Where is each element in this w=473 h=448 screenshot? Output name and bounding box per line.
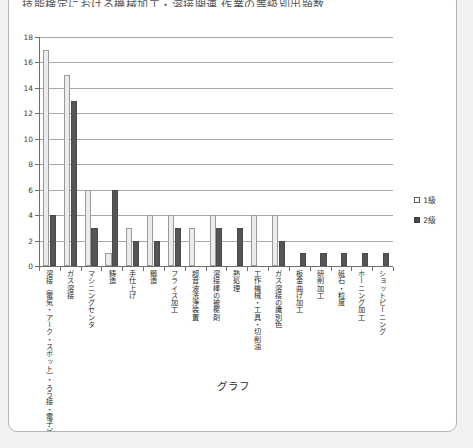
bar xyxy=(126,228,132,266)
legend-swatch-icon xyxy=(414,217,420,223)
x-axis-category-label: ガス溶接の識別色 xyxy=(275,270,282,328)
bar xyxy=(91,228,97,266)
y-axis-line xyxy=(39,37,40,267)
y-axis-tick xyxy=(35,113,40,114)
x-axis-category-label: 工作機械・工具・切削油 xyxy=(254,270,261,350)
y-axis-tick xyxy=(35,164,40,165)
x-axis-category-label: 熱処理 xyxy=(233,270,240,292)
gridline xyxy=(39,190,393,191)
figure-caption: グラフ xyxy=(9,378,457,393)
legend-swatch-icon xyxy=(414,197,420,203)
x-axis-category-label: 鍛造 xyxy=(150,270,157,285)
x-axis-category-label: フライス加工 xyxy=(171,270,178,314)
bar xyxy=(112,190,118,266)
legend-label: 2級 xyxy=(423,214,436,225)
bar xyxy=(320,253,326,266)
y-axis-tick-label: 8 xyxy=(28,160,33,169)
bar xyxy=(300,253,306,266)
x-axis-category-label: ホーニング加工 xyxy=(358,270,365,321)
x-axis-category-label: 鋳造 xyxy=(108,270,115,285)
bar xyxy=(362,253,368,266)
gridline xyxy=(39,139,393,140)
gridline xyxy=(39,88,393,89)
bar xyxy=(237,228,243,266)
y-axis-tick-label: 0 xyxy=(28,262,33,271)
bar xyxy=(50,215,56,266)
y-axis-tick-label: 16 xyxy=(24,58,33,67)
gridline xyxy=(39,215,393,216)
y-axis-tick-label: 4 xyxy=(28,211,33,220)
x-axis-category-labels: 溶接（電気・アーク・スポット）・ろう接・電子ビーム・レーザ・放電・ウォータジェッ… xyxy=(39,270,393,375)
bar xyxy=(168,215,174,266)
x-axis-tick xyxy=(393,267,394,271)
bar xyxy=(383,253,389,266)
y-axis-tick-label: 18 xyxy=(24,33,33,42)
y-axis-tick xyxy=(35,62,40,63)
bar-chart: 024681012141618 溶接（電気・アーク・スポット）・ろう接・電子ビー… xyxy=(9,0,457,432)
gridline xyxy=(39,113,393,114)
y-axis-tick xyxy=(35,190,40,191)
x-axis-category-label: 溶接（電気・アーク・スポット）・ろう接・電子ビーム・レーザ・放電・ウォータジェッ… xyxy=(46,270,53,432)
x-axis-category-label: マシニングセンタ xyxy=(87,270,94,328)
bar xyxy=(71,101,77,266)
bar xyxy=(43,50,49,266)
x-axis-category-label: 手仕上げ xyxy=(129,270,136,299)
gridline xyxy=(39,62,393,63)
bar xyxy=(105,253,111,266)
bar xyxy=(64,75,70,266)
x-axis-category-label: 超音波洗浄装置 xyxy=(192,270,199,321)
x-axis-category-label: 砥石・粒度 xyxy=(337,270,344,307)
y-axis-tick xyxy=(35,215,40,216)
legend-label: 1級 xyxy=(423,194,436,205)
bar xyxy=(272,215,278,266)
gridline xyxy=(39,164,393,165)
legend-item: 1級 xyxy=(414,194,436,205)
document-page-card: 024681012141618 溶接（電気・アーク・スポット）・ろう接・電子ビー… xyxy=(8,0,457,432)
x-axis-category-label: 板金曲げ加工 xyxy=(296,270,303,314)
chart-legend: 1級2級 xyxy=(414,194,436,234)
bar xyxy=(216,228,222,266)
bar xyxy=(85,190,91,266)
bar xyxy=(279,241,285,266)
y-axis-tick-label: 14 xyxy=(24,83,33,92)
bar xyxy=(251,215,257,266)
y-axis-tick-label: 6 xyxy=(28,185,33,194)
clipped-page-heading: 技能検定における機械加工・溶接関連 作業の等級別出題数 xyxy=(0,0,473,7)
bar xyxy=(147,215,153,266)
bar xyxy=(189,228,195,266)
y-axis-tick xyxy=(35,241,40,242)
x-axis-line xyxy=(39,266,393,267)
y-axis-tick-label: 12 xyxy=(24,109,33,118)
bar xyxy=(210,215,216,266)
bar xyxy=(154,241,160,266)
y-axis-tick xyxy=(35,37,40,38)
gridline xyxy=(39,37,393,38)
bar xyxy=(133,241,139,266)
y-axis-tick-label: 10 xyxy=(24,134,33,143)
x-axis-category-label: 研削加工 xyxy=(316,270,323,299)
y-axis-tick xyxy=(35,88,40,89)
y-axis-tick-label: 2 xyxy=(28,236,33,245)
y-axis-tick xyxy=(35,139,40,140)
x-axis-category-label: ガス溶接 xyxy=(67,270,74,299)
x-axis-category-label: ショットピーニング xyxy=(379,270,386,336)
plot-area: 024681012141618 xyxy=(39,37,393,266)
bar xyxy=(341,253,347,266)
x-axis-category-label: 溶接棒の被覆剤 xyxy=(212,270,219,321)
legend-item: 2級 xyxy=(414,214,436,225)
bar xyxy=(175,228,181,266)
